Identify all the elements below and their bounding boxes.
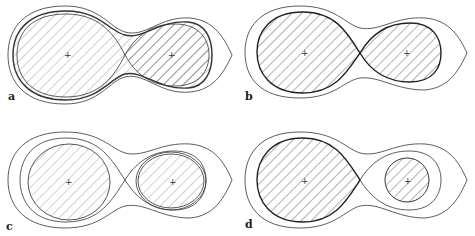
panel-d: + + d [235, 118, 472, 236]
center-mark-secondary: + [168, 50, 176, 60]
center-mark-secondary: + [403, 48, 411, 58]
center-mark-primary: + [301, 176, 309, 186]
panel-c: + + c [0, 118, 237, 236]
center-mark-secondary: + [404, 176, 412, 186]
center-mark-primary: + [64, 50, 72, 60]
center-mark-primary: + [65, 177, 73, 187]
roche-diagram-c: + + [0, 118, 237, 236]
panel-label-c: c [6, 220, 13, 233]
panel-label-b: b [245, 90, 253, 103]
panel-b: + + b [235, 0, 472, 118]
roche-diagram-d: + + [235, 118, 475, 236]
center-mark-secondary: + [169, 177, 177, 187]
roche-lobe-secondary [360, 23, 441, 82]
center-mark-primary: + [301, 48, 309, 58]
panel-a: + + a [0, 0, 237, 118]
panel-label-d: d [245, 218, 253, 231]
panel-label-a: a [8, 90, 15, 103]
roche-lobe-secondary [125, 24, 209, 86]
roche-diagram-a: + + [0, 0, 237, 118]
roche-diagram-b: + + [235, 0, 475, 118]
